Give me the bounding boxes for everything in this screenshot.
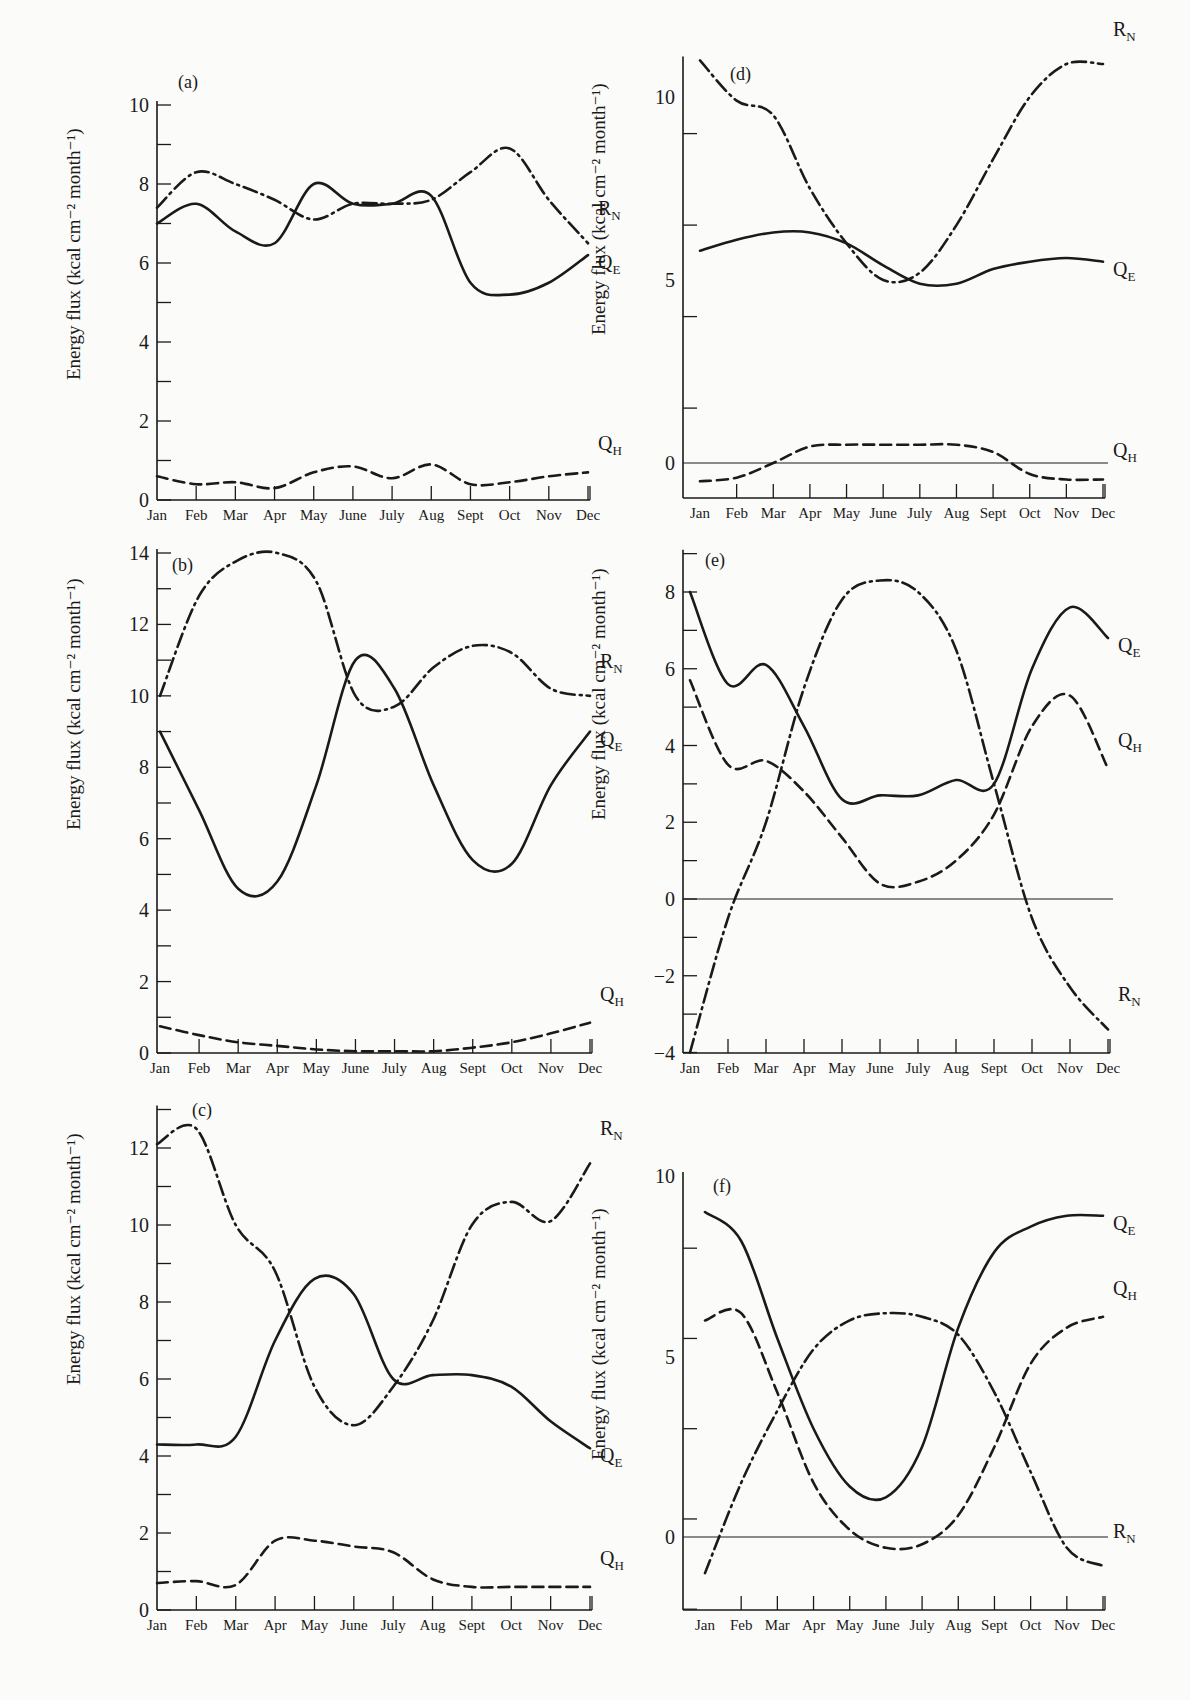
y-axis-label-b: Energy flux (kcal cm⁻² month⁻¹) (62, 578, 85, 830)
x-tick-label: May (836, 1617, 864, 1633)
y-tick-label: 10 (655, 1165, 675, 1187)
y-axis-label-a: Energy flux (kcal cm⁻² month⁻¹) (62, 128, 85, 380)
series-RN (705, 1313, 1103, 1573)
series-label-RN: RN (1113, 1520, 1136, 1546)
series-QH (705, 1309, 1103, 1549)
series-label-QE: QE (1113, 1212, 1135, 1238)
x-tick-label: Mar (765, 1617, 790, 1633)
x-tick-label: Aug (945, 1617, 971, 1633)
y-axis-label-e: Energy flux (kcal cm⁻² month⁻¹) (587, 568, 610, 820)
x-tick-label: Nov (1054, 1617, 1080, 1633)
x-tick-label: Sept (981, 1617, 1009, 1633)
panel-tag-d: (d) (730, 64, 751, 85)
x-tick-label: July (910, 1617, 936, 1633)
series-QE (705, 1212, 1103, 1500)
panel-tag-e: (e) (705, 550, 725, 571)
y-axis-label-f: Energy flux (kcal cm⁻² month⁻¹) (587, 1208, 610, 1460)
y-tick-label: 0 (665, 1526, 675, 1548)
x-tick-label: Oct (1020, 1617, 1042, 1633)
y-tick-label: 5 (665, 1346, 675, 1368)
x-tick-label: Feb (730, 1617, 753, 1633)
panel-tag-a: (a) (178, 72, 198, 93)
panel-tag-c: (c) (192, 1100, 212, 1121)
x-tick-label: Apr (802, 1617, 825, 1633)
series-label-QH: QH (1113, 1277, 1137, 1303)
y-axis-label-c: Energy flux (kcal cm⁻² month⁻¹) (62, 1133, 85, 1385)
x-tick-label: Jan (695, 1617, 715, 1633)
panel-tag-f: (f) (713, 1176, 731, 1197)
panel-tag-b: (b) (172, 555, 193, 576)
x-tick-label: June (872, 1617, 900, 1633)
y-axis-label-d: Energy flux (kcal cm⁻² month⁻¹) (587, 83, 610, 335)
x-tick-label: Dec (1091, 1617, 1115, 1633)
